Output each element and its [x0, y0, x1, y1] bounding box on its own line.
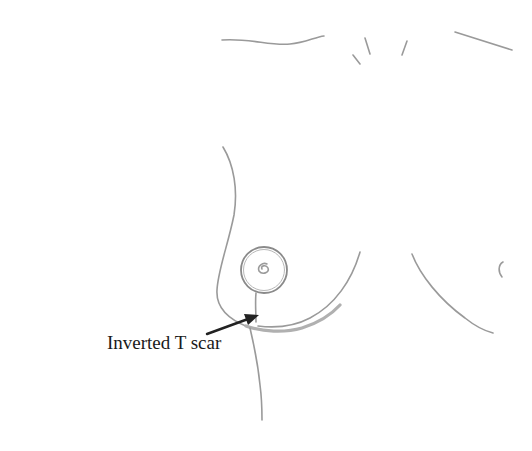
scar-label: Inverted T scar: [107, 333, 221, 352]
neck-tick-2: [365, 38, 370, 54]
lower-torso-line: [250, 328, 262, 420]
clavicle-strokes: [222, 32, 512, 64]
nipple: [259, 263, 269, 273]
areola-inner: [244, 250, 285, 291]
left-breast-contour: [258, 252, 360, 327]
diagram-drawing: [0, 0, 532, 451]
areola-outer: [241, 247, 287, 293]
neck-tick-1: [353, 55, 360, 64]
left-torso-outline: [217, 147, 248, 327]
left-clavicle-line: [222, 36, 324, 44]
right-nipple-mark: [499, 262, 503, 277]
neck-tick-3: [402, 41, 407, 55]
right-clavicle-line: [455, 32, 512, 50]
inframammary-scar: [246, 305, 340, 331]
right-breast-contour: [412, 254, 493, 333]
